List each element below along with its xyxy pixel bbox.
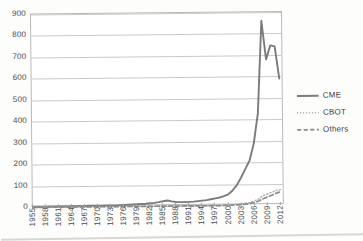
x-tick-label-2012: 2012 [275,205,284,224]
x-tick-label-1976: 1976 [119,207,128,226]
x-tick-label-1985: 1985 [158,206,167,225]
series-layer [31,12,285,207]
y-tick-label-400: 400 [13,116,27,125]
x-tick-label-1970: 1970 [93,207,102,226]
x-tick-label-1994: 1994 [197,206,206,225]
legend-line-dotted-icon [297,108,319,116]
x-tick-label-1997: 1997 [210,206,219,225]
y-tick-label-500: 500 [13,95,27,104]
x-tick-label-1958: 1958 [41,207,50,226]
y-tick-label-900: 900 [12,9,26,18]
x-tick-label-2006: 2006 [249,205,258,224]
y-tick-label-200: 200 [13,159,27,168]
scanned-chart-canvas: 9008007006005004003002001000 19551958196… [0,0,363,241]
legend-line-solid-icon [297,91,319,99]
y-axis: 9008007006005004003002001000 [0,1,32,240]
legend-item-others[interactable]: Others [297,120,362,138]
legend-label-others: Others [323,124,348,133]
series-line-cme [31,21,280,207]
x-tick-label-2000: 2000 [223,206,232,225]
x-tick-label-1955: 1955 [28,207,37,226]
legend-label-cme: CME [323,90,341,99]
x-tick-label-1973: 1973 [106,207,115,226]
plot-area [30,11,284,206]
x-tick-label-1964: 1964 [67,207,76,226]
y-tick-label-700: 700 [12,52,26,61]
x-tick-label-1988: 1988 [171,206,180,225]
x-tick-label-1991: 1991 [184,206,193,225]
x-tick-label-2009: 2009 [262,205,271,224]
y-tick-label-100: 100 [14,181,28,190]
legend-label-cbot: CBOT [323,107,346,116]
y-tick-label-600: 600 [13,73,27,82]
x-tick-label-1961: 1961 [54,207,63,226]
x-tick-label-1967: 1967 [80,207,89,226]
legend-item-cbot[interactable]: CBOT [297,103,362,121]
x-tick-label-1979: 1979 [132,206,141,225]
y-tick-label-300: 300 [13,138,27,147]
chart-legend: CME CBOT Others [297,86,362,138]
x-tick-label-2003: 2003 [236,205,245,224]
x-tick-label-1982: 1982 [145,206,154,225]
legend-item-cme[interactable]: CME [297,86,362,104]
legend-line-dashed-icon [297,125,319,133]
y-tick-label-800: 800 [12,30,26,39]
